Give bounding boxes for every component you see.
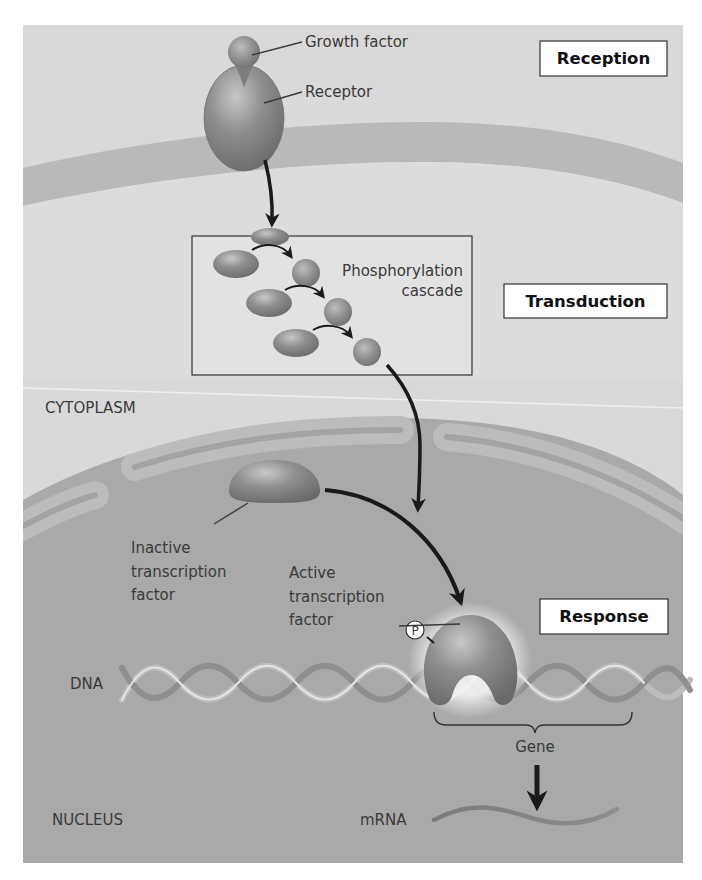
phosphorylation-cascade-box: Phosphorylation cascade (192, 228, 472, 375)
dna-label: DNA (70, 675, 104, 693)
reception-stage-box: Reception (540, 41, 667, 76)
svg-text:Transduction: Transduction (525, 292, 645, 311)
gene-label: Gene (515, 738, 555, 756)
mrna-label: mRNA (360, 811, 407, 829)
active-tf-label-line3: factor (289, 611, 334, 629)
active-tf-label-line2: transcription (289, 588, 384, 606)
phosphate-group: P (406, 621, 424, 639)
nucleus-region (23, 418, 683, 863)
nucleus-label: NUCLEUS (52, 811, 123, 829)
cytoplasm-label: CYTOPLASM (45, 399, 136, 417)
inactive-tf-label-line1: Inactive (131, 539, 191, 557)
cascade-label-line2: cascade (402, 282, 463, 300)
response-stage-box: Response (540, 599, 668, 634)
svg-text:Reception: Reception (557, 49, 650, 68)
transduction-stage-box: Transduction (504, 284, 667, 318)
receptor-label: Receptor (305, 83, 373, 101)
inactive-tf-label-line2: transcription (131, 563, 226, 581)
growth-factor-label: Growth factor (305, 33, 409, 51)
svg-text:Response: Response (559, 607, 649, 626)
cascade-label-line1: Phosphorylation (342, 262, 463, 280)
inactive-tf-label-line3: factor (131, 586, 176, 604)
active-tf-label-line1: Active (289, 564, 335, 582)
signaling-diagram: Growth factor Receptor Reception Phospho… (0, 0, 702, 880)
